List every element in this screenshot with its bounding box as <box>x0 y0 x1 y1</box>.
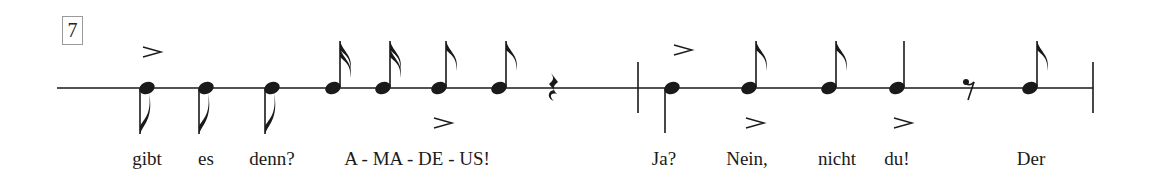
flag-icon <box>836 41 847 71</box>
accent-icon <box>434 118 452 128</box>
rests <box>549 73 974 101</box>
lyric-syllable: A - MA - DE - US! <box>344 148 490 170</box>
eighth-rest-icon <box>963 79 974 100</box>
quarter-rest-icon <box>549 73 558 101</box>
accent-icon <box>894 118 912 128</box>
music-staff <box>0 0 1149 186</box>
quarter-note <box>887 41 906 97</box>
flag-icon <box>265 93 275 134</box>
eighth-note <box>196 79 215 134</box>
lyric-syllable: gibt <box>132 148 162 170</box>
lyric-syllable: es <box>198 148 214 170</box>
accents <box>143 45 912 128</box>
lyric-syllable: du! <box>884 148 909 170</box>
flag-icon <box>756 41 767 71</box>
flag-icon <box>1037 41 1048 71</box>
eighth-note <box>262 79 281 134</box>
accent-icon <box>674 45 692 55</box>
lyric-syllable: denn? <box>249 148 294 170</box>
quarter-note <box>662 79 681 133</box>
lyric-syllable: Nein, <box>726 148 768 170</box>
lyric-syllable: Ja? <box>652 148 676 170</box>
lyric-syllable: nicht <box>818 148 856 170</box>
flag-icon <box>140 93 150 134</box>
accent-icon <box>143 47 161 57</box>
flag-icon <box>446 41 457 71</box>
flag-icon <box>506 41 517 71</box>
lyric-syllable: Der <box>1017 148 1045 170</box>
accent-icon <box>746 118 764 128</box>
eighth-note <box>137 79 156 134</box>
flag-icon <box>199 93 209 134</box>
